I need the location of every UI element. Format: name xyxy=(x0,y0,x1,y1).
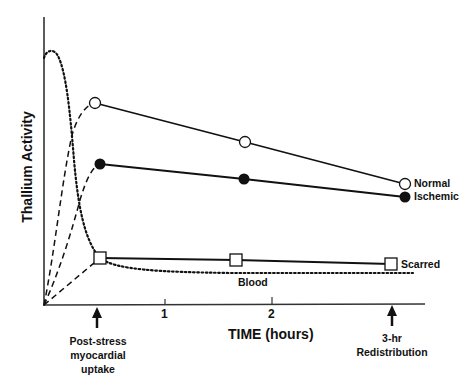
x-tick-label-1: 1 xyxy=(161,307,168,321)
scarred-line xyxy=(100,258,391,264)
y-axis-label: Thallium Activity xyxy=(19,111,35,223)
uptake-line-1: Post-stress xyxy=(62,334,134,348)
redistribution-arrow-icon xyxy=(387,305,397,326)
x-axis-label: TIME (hours) xyxy=(228,326,314,342)
redistribution-line-1: 3-hr xyxy=(352,331,432,345)
legend-blood: Blood xyxy=(238,276,268,288)
uptake-line-2: myocardial xyxy=(62,348,134,362)
ischemic-uptake-curve xyxy=(44,164,100,305)
uptake-annotation: Post-stress myocardial uptake xyxy=(62,334,134,376)
x-axis xyxy=(43,304,425,305)
uptake-arrow-icon xyxy=(92,307,102,328)
normal-uptake-curve xyxy=(44,103,95,305)
scarred-uptake-curve xyxy=(44,258,100,305)
x-tick-label-2: 2 xyxy=(268,307,275,321)
normal-markers xyxy=(90,98,411,190)
legend-scarred: Scarred xyxy=(401,258,440,270)
legend-ischemic: Ischemic xyxy=(414,190,459,202)
redistribution-annotation: 3-hr Redistribution xyxy=(352,331,432,359)
redistribution-line-2: Redistribution xyxy=(352,345,432,359)
legend-normal: Normal xyxy=(414,177,450,189)
ischemic-line xyxy=(100,164,405,197)
uptake-line-3: uptake xyxy=(62,362,134,376)
